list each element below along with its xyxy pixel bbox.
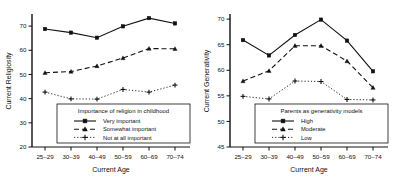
series-line <box>45 49 175 73</box>
data-point-plus <box>69 96 74 101</box>
data-point-plus <box>95 97 100 102</box>
data-point-square <box>43 27 46 30</box>
x-tick-label: 30–39 <box>260 153 278 160</box>
legend-label: Not at all important <box>103 135 152 141</box>
legend-label: Somewhat important <box>103 126 157 132</box>
left-data-series <box>43 16 178 101</box>
left-chart-svg: 203040506070 25–2930–3940–4950–5960–6970… <box>0 0 198 179</box>
y-tick-label: 45 <box>218 143 225 150</box>
left-y-axis-label: Current Religiosity <box>5 52 13 110</box>
y-tick-label: 65 <box>218 41 225 48</box>
right-y-ticks: 455055606570 <box>218 15 230 150</box>
data-point-plus <box>319 79 324 84</box>
y-tick-label: 40 <box>20 95 27 102</box>
legend-label: Very important <box>103 118 141 124</box>
data-point-square <box>83 119 87 123</box>
series-very-important <box>43 16 176 39</box>
left-x-axis-label: Current Age <box>92 166 129 174</box>
data-point-square <box>173 22 176 25</box>
right-legend: Parents as generativity models HighModer… <box>255 104 388 143</box>
y-tick-label: 60 <box>20 46 27 53</box>
chart-panel-right: 455055606570 25–2930–3940–4950–5960–6970… <box>198 0 396 179</box>
right-x-ticks: 25–2930–3940–4950–5960–6970–74 <box>234 147 382 160</box>
data-point-square <box>121 25 124 28</box>
data-point-square <box>293 33 296 36</box>
x-tick-label: 50–59 <box>114 153 132 160</box>
series-somewhat-important <box>43 46 177 74</box>
data-point-plus <box>241 94 246 99</box>
series-line <box>243 20 373 72</box>
series-low <box>241 79 376 103</box>
series-high <box>241 18 374 73</box>
data-point-plus <box>267 96 272 101</box>
y-tick-label: 20 <box>20 143 27 150</box>
x-tick-label: 40–49 <box>88 153 106 160</box>
left-y-ticks: 203040506070 <box>20 22 32 150</box>
legend-label: Low <box>301 135 312 141</box>
left-x-ticks: 25–2930–3940–4950–5960–6970–74 <box>36 147 184 160</box>
data-point-triangle <box>267 69 271 73</box>
x-tick-label: 70–74 <box>364 153 382 160</box>
data-point-plus <box>121 87 126 92</box>
right-data-series <box>241 18 376 102</box>
x-tick-label: 70–74 <box>166 153 184 160</box>
data-point-square <box>281 119 285 123</box>
x-tick-label: 60–69 <box>338 153 356 160</box>
x-tick-label: 50–59 <box>312 153 330 160</box>
x-tick-label: 60–69 <box>140 153 158 160</box>
data-point-square <box>319 18 322 21</box>
series-not-at-all-important <box>43 83 178 102</box>
y-tick-label: 30 <box>20 119 27 126</box>
data-point-plus <box>43 90 48 95</box>
legend-label: High <box>301 118 313 124</box>
right-chart-svg: 455055606570 25–2930–3940–4950–5960–6970… <box>198 0 396 179</box>
y-tick-label: 50 <box>218 118 225 125</box>
data-point-square <box>241 38 244 41</box>
data-point-square <box>95 36 98 39</box>
x-tick-label: 25–29 <box>234 153 252 160</box>
data-point-plus <box>371 97 376 102</box>
x-tick-label: 25–29 <box>36 153 54 160</box>
right-legend-title: Parents as generativity models <box>280 108 362 114</box>
data-point-plus <box>147 90 152 95</box>
series-line <box>45 85 175 99</box>
x-tick-label: 30–39 <box>62 153 80 160</box>
left-legend: Importance of religion in childhood Very… <box>57 104 190 143</box>
legend-label: Moderate <box>301 126 326 132</box>
y-tick-label: 50 <box>20 71 27 78</box>
y-tick-label: 55 <box>218 92 225 99</box>
data-point-triangle <box>345 59 349 63</box>
left-legend-title: Importance of religion in childhood <box>78 108 169 114</box>
data-point-square <box>267 54 270 57</box>
right-x-axis-label: Current Age <box>290 166 327 174</box>
y-tick-label: 70 <box>20 22 27 29</box>
chart-panel-left: 203040506070 25–2930–3940–4950–5960–6970… <box>0 0 198 179</box>
data-point-square <box>69 31 72 34</box>
series-line <box>243 81 373 100</box>
series-line <box>45 18 175 38</box>
right-y-axis-label: Current Generativity <box>203 49 211 112</box>
x-tick-label: 40–49 <box>286 153 304 160</box>
y-tick-label: 60 <box>218 66 225 73</box>
data-point-plus <box>173 83 178 88</box>
data-point-square <box>345 39 348 42</box>
data-point-square <box>371 70 374 73</box>
figure-two-panel-line-charts: 203040506070 25–2930–3940–4950–5960–6970… <box>0 0 396 179</box>
data-point-square <box>147 16 150 19</box>
y-tick-label: 70 <box>218 15 225 22</box>
